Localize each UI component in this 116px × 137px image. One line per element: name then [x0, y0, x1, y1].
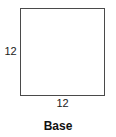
geometry-figure: 12 12 Base	[0, 0, 116, 137]
bottom-side-dimension-label: 12	[20, 97, 105, 110]
figure-caption: Base	[0, 119, 116, 133]
left-side-dimension-label: 12	[3, 45, 18, 58]
square-shape	[20, 8, 105, 96]
